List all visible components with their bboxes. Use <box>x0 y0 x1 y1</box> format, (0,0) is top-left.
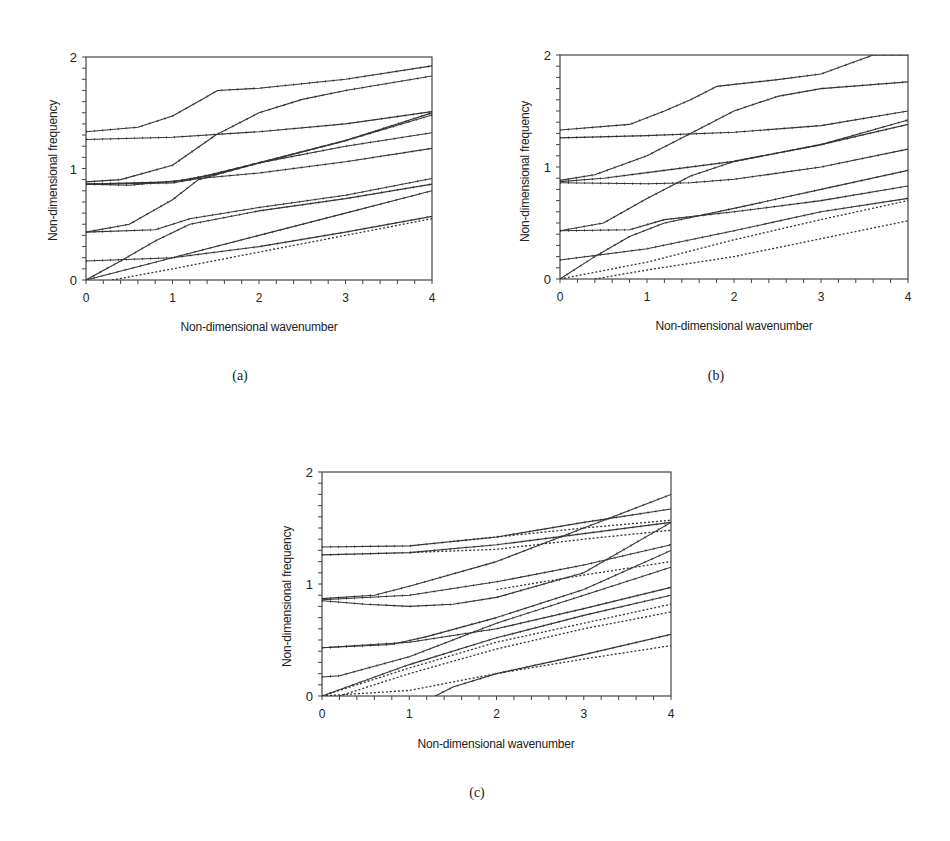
x-tick-label: 0 <box>319 707 326 721</box>
series-line-mode-9 <box>322 550 671 647</box>
series-group <box>322 494 671 696</box>
caption-c: (c) <box>457 785 497 801</box>
series-markers-mode-15 <box>435 634 671 696</box>
series-markers-mode-9 <box>322 550 671 647</box>
x-tick-label: 4 <box>668 707 675 721</box>
series-line-mode-7 <box>322 522 671 606</box>
series-line-mode-16 <box>322 646 671 696</box>
x-axis-label-c: Non-dimensional wavenumber <box>396 737 596 751</box>
series-line-mode-3 <box>322 522 671 555</box>
y-axis-label-c: Non-dimensional frequency <box>280 526 294 667</box>
x-tick-label: 2 <box>493 707 500 721</box>
series-markers-mode-3 <box>322 522 671 555</box>
x-tick-label: 3 <box>580 707 587 721</box>
chart-panel-c: 01234012 Non-dimensional frequency Non-d… <box>0 0 950 841</box>
plot-area-c: 01234012 <box>0 0 950 841</box>
y-tick-label: 2 <box>306 465 313 480</box>
y-tick-label: 0 <box>306 689 313 704</box>
series-line-mode-15 <box>435 634 671 696</box>
x-tick-label: 1 <box>406 707 413 721</box>
series-markers-mode-7 <box>322 522 671 606</box>
series-line-mode-2 <box>453 520 671 541</box>
series-line-mode-14 <box>339 612 671 696</box>
y-tick-label: 1 <box>306 577 313 592</box>
